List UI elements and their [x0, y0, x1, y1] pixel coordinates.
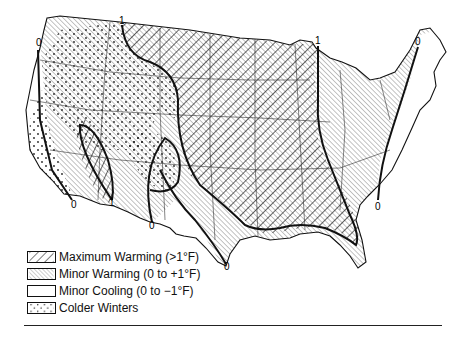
legend-item-colder-winters: Colder Winters: [27, 300, 200, 316]
minor-warming-swatch-icon: [27, 268, 56, 280]
contour-label: 1: [315, 35, 321, 46]
minor-cooling-swatch-icon: [27, 285, 56, 297]
legend-item-minor-cooling: Minor Cooling (0 to −1°F): [27, 283, 200, 299]
contour-label: 0: [375, 201, 381, 212]
contour-label: 0: [149, 220, 155, 231]
contour-label: 0: [71, 199, 77, 210]
legend-label: Minor Cooling (0 to −1°F): [59, 284, 194, 298]
shaded-regions: [0, 0, 469, 280]
legend-item-minor-warming: Minor Warming (0 to +1°F): [27, 266, 200, 282]
contour-label: 0: [224, 261, 230, 272]
us-temperature-map: 0 1 1 0 0 1 0 0 0: [0, 0, 469, 280]
contour-label: 1: [119, 15, 125, 26]
contour-label: 0: [36, 37, 42, 48]
bottom-divider: [24, 325, 442, 326]
legend-label: Colder Winters: [59, 301, 138, 315]
legend-label: Minor Warming (0 to +1°F): [59, 267, 200, 281]
map-legend: Maximum Warming (>1°F) Minor Warming (0 …: [27, 249, 200, 317]
contour-label: 0: [415, 36, 421, 47]
max-warming-swatch-icon: [27, 251, 56, 263]
colder-winters-swatch-icon: [27, 302, 56, 314]
contour-label: 1: [109, 197, 115, 208]
legend-label: Maximum Warming (>1°F): [59, 250, 199, 264]
legend-item-max-warming: Maximum Warming (>1°F): [27, 249, 200, 265]
